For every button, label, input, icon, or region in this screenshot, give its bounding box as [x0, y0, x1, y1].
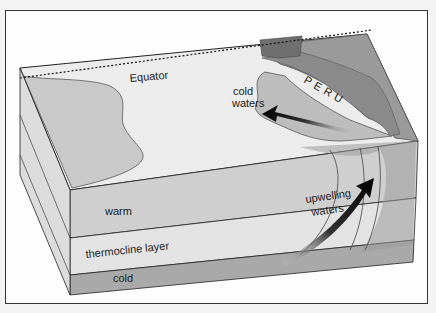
cold-waters-label-1: cold	[233, 85, 253, 97]
cold-waters-label-2: waters	[231, 97, 265, 109]
cold-layer-label: cold	[113, 272, 133, 284]
warm-layer-label: warm	[104, 205, 132, 217]
ecuador-region	[260, 36, 302, 58]
upwelling-diagram: Equator cold waters PERU warm thermoclin…	[0, 0, 436, 313]
